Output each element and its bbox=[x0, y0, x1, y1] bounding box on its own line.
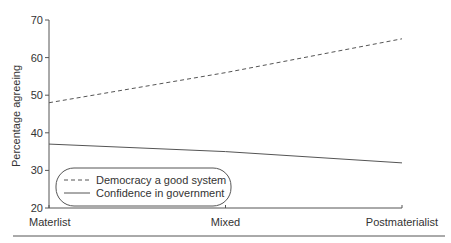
x-tick-label: Materlist bbox=[29, 216, 71, 228]
legend-label-democracy: Democracy a good system bbox=[96, 174, 226, 186]
x-tick-label: Mixed bbox=[211, 216, 240, 228]
legend: Democracy a good system Confidence in go… bbox=[56, 168, 231, 206]
y-tick-label: 60 bbox=[31, 52, 43, 64]
y-tick-label: 70 bbox=[31, 14, 43, 26]
y-axis: 203040506070 bbox=[31, 14, 49, 214]
y-tick-label: 20 bbox=[31, 202, 43, 214]
y-tick-label: 30 bbox=[31, 164, 43, 176]
y-tick-label: 50 bbox=[31, 89, 43, 101]
legend-label-confidence: Confidence in government bbox=[96, 187, 224, 199]
y-axis-title: Percentage agreeing bbox=[10, 65, 22, 167]
series-line bbox=[49, 144, 402, 163]
y-tick-label: 40 bbox=[31, 127, 43, 139]
series-lines bbox=[49, 39, 402, 163]
series-line bbox=[49, 39, 402, 103]
line-chart: 203040506070 MaterlistMixedPostmateriali… bbox=[0, 0, 451, 243]
x-axis: MaterlistMixedPostmaterialist bbox=[29, 205, 438, 228]
x-tick-label: Postmaterialist bbox=[366, 216, 438, 228]
